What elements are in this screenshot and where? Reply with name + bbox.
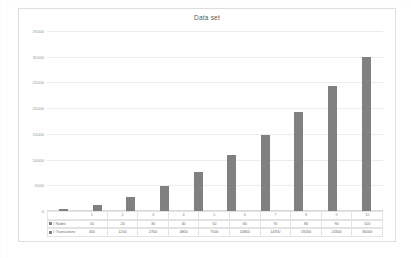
category-cell: 6 (230, 211, 261, 220)
table-cell: 30000 (352, 228, 383, 237)
bar-slot (249, 31, 283, 211)
y-axis-tick-label: 10000 (33, 157, 44, 162)
chart-container: Data set 35000 30000 25000 20000 15000 1… (18, 8, 396, 242)
series-label: # Nodes (53, 222, 66, 226)
bar-slot (148, 31, 182, 211)
table-cell: 100 (352, 220, 383, 229)
table-row-nodes: # Nodes 10 20 30 40 50 60 70 80 90 100 (47, 220, 383, 229)
bar (160, 186, 169, 211)
y-axis-tick-label: 25000 (33, 80, 44, 85)
bar-slot (349, 31, 383, 211)
bar-slot (81, 31, 115, 211)
y-axis-tick-label: 35000 (33, 29, 44, 34)
table-row-categories: 1 2 3 4 5 6 7 8 9 10 (47, 211, 383, 220)
y-axis-tick-label: 20000 (33, 106, 44, 111)
category-cell: 1 (77, 211, 108, 220)
bar (294, 112, 303, 211)
y-axis-tick-label: 30000 (33, 54, 44, 59)
plot-area: 35000 30000 25000 20000 15000 10000 5000… (47, 31, 383, 211)
category-cell: 2 (108, 211, 139, 220)
category-cell: 8 (291, 211, 322, 220)
bar (328, 86, 337, 211)
y-axis-tick-label: 0 (42, 209, 44, 214)
bar-slot (114, 31, 148, 211)
table-cell: 1200 (108, 228, 139, 237)
bar-slot (316, 31, 350, 211)
table-cell: 19200 (291, 228, 322, 237)
table-cell: 50 (199, 220, 230, 229)
y-axis-tick-label: 5000 (35, 183, 44, 188)
table-cell: 70 (261, 220, 292, 229)
category-cell: 5 (199, 211, 230, 220)
category-cell: 7 (261, 211, 292, 220)
table-cell: 30 (138, 220, 169, 229)
bar (261, 135, 270, 211)
table-cell: 24300 (322, 228, 353, 237)
series-label: # Transactions (53, 230, 75, 234)
table-cell: 4800 (169, 228, 200, 237)
bar (126, 197, 135, 211)
bar-slot (181, 31, 215, 211)
legend-swatch-icon (49, 222, 52, 225)
table-cell: 80 (291, 220, 322, 229)
table-cell: 10800 (230, 228, 261, 237)
bar-slot (47, 31, 81, 211)
data-table: 1 2 3 4 5 6 7 8 9 10 # Nodes 10 20 30 40… (47, 211, 383, 237)
table-cell: 2700 (138, 228, 169, 237)
bar (227, 155, 236, 211)
bar-series (47, 31, 383, 211)
table-cell: 40 (169, 220, 200, 229)
table-cell: 7500 (199, 228, 230, 237)
category-cell: 9 (322, 211, 353, 220)
table-cell: 20 (108, 220, 139, 229)
bar (194, 172, 203, 211)
y-axis-tick-label: 15000 (33, 131, 44, 136)
table-cell: 90 (322, 220, 353, 229)
table-cell: 14700 (261, 228, 292, 237)
legend-swatch-icon (49, 231, 52, 234)
category-cell: 4 (169, 211, 200, 220)
chart-title: Data set (19, 14, 395, 21)
series-legend-transactions: # Transactions (47, 228, 77, 237)
bar-slot (215, 31, 249, 211)
bar (362, 57, 371, 211)
table-row-transactions: # Transactions 300 1200 2700 4800 7500 1… (47, 228, 383, 237)
table-corner-cell (47, 211, 77, 220)
series-legend-nodes: # Nodes (47, 220, 77, 229)
table-cell: 300 (77, 228, 108, 237)
bar-slot (282, 31, 316, 211)
table-cell: 10 (77, 220, 108, 229)
category-cell: 3 (138, 211, 169, 220)
category-cell: 10 (352, 211, 383, 220)
table-cell: 60 (230, 220, 261, 229)
